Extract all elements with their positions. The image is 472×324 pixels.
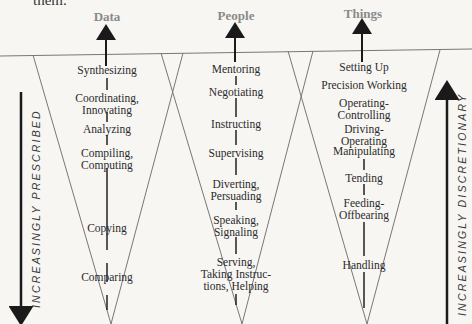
things-item: Operating- Controlling: [337, 97, 390, 121]
column-title-people: People: [218, 8, 255, 24]
people-item: Negotiating: [209, 86, 263, 98]
data-item: Compiling, Computing: [81, 147, 133, 171]
things-item: Manipulating: [333, 145, 395, 157]
things-item: Tending: [345, 172, 383, 184]
data-item: Copying: [87, 222, 127, 234]
people-item: Diverting, Persuading: [210, 178, 261, 202]
column-title-data: Data: [94, 9, 121, 25]
data-item: Coordinating, Innovating: [75, 92, 139, 116]
right-axis-label: INCREASINGLY DISCRETIONARY: [456, 93, 468, 316]
data-item: Comparing: [81, 271, 133, 283]
people-item: Speaking, Signaling: [213, 214, 259, 238]
things-item: Precision Working: [321, 79, 406, 91]
people-item: Serving, Taking Instruc- tions, Helping: [201, 256, 271, 292]
column-title-things: Things: [344, 6, 382, 22]
things-item: Driving- Operating: [341, 123, 387, 147]
things-item: Feeding- Offbearing: [339, 197, 389, 221]
people-item: Instructing: [211, 118, 261, 130]
left-axis-label: INCREASINGLY PRESCRIBED: [30, 109, 42, 308]
things-item: Handling: [343, 259, 386, 271]
header-fragment: them.: [33, 0, 67, 9]
data-item: Analyzing: [83, 123, 131, 135]
data-item: Synthesizing: [77, 64, 136, 76]
people-item: Mentoring: [212, 63, 261, 75]
people-item: Supervising: [209, 147, 264, 159]
things-item: Setting Up: [339, 61, 389, 73]
